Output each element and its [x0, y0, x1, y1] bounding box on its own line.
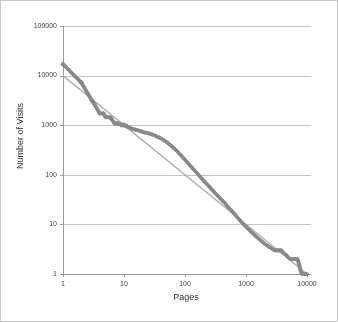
y-tick-label-1000: 1000: [19, 121, 57, 128]
chart-figure: Number of Visits Pages 100000 10000 1000…: [0, 0, 338, 322]
y-tick-label-10: 10: [19, 220, 57, 227]
y-tick-label-10000: 10000: [19, 71, 57, 78]
x-tick-label-1000: 1000: [231, 280, 261, 287]
x-tick-label-10: 10: [109, 280, 139, 287]
y-tick-label-100: 100: [19, 171, 57, 178]
x-tick-label-1: 1: [48, 280, 78, 287]
x-axis-title: Pages: [61, 292, 311, 302]
y-tick-label-100000: 100000: [19, 22, 57, 29]
y-tick-label-1: 1: [19, 270, 57, 277]
x-tick-label-10000: 10000: [292, 280, 322, 287]
x-tick-label-100: 100: [170, 280, 200, 287]
